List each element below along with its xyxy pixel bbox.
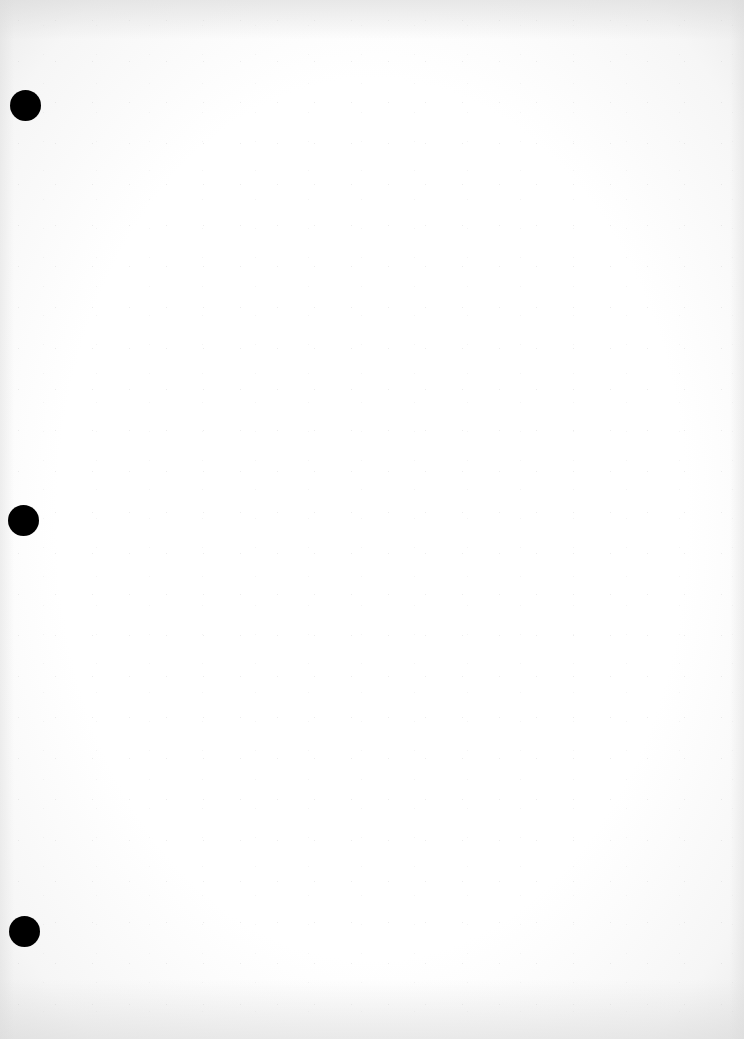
paper-edge-shadow-top — [0, 0, 744, 40]
blank-paper-sheet — [0, 0, 744, 1039]
paper-edge-shadow-bottom — [0, 979, 744, 1039]
punch-hole-top — [10, 90, 41, 121]
punch-hole-middle — [8, 505, 39, 536]
paper-texture — [0, 0, 744, 1039]
punch-hole-bottom — [9, 916, 40, 947]
paper-edge-shadow-right — [730, 0, 744, 1039]
